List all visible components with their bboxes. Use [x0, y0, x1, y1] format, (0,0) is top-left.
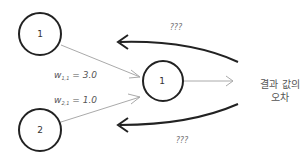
output-node-label: 1 — [159, 76, 165, 86]
arrowhead-icon — [129, 70, 140, 78]
input-node-1-label: 1 — [37, 29, 43, 39]
output-arrow — [184, 76, 233, 86]
input-node-1: 1 — [19, 13, 61, 55]
weight-label-1-1: w1,1= 3.0 — [54, 70, 97, 81]
output-error-label-line2: 오차 — [256, 91, 303, 104]
backprop-label-bottom: ??? — [176, 136, 189, 145]
output-error-label: 결과 값의 오차 — [256, 78, 303, 104]
output-node: 1 — [143, 61, 183, 101]
backprop-arrow-bottom — [118, 104, 238, 132]
backprop-label-top: ??? — [170, 23, 183, 32]
weight-label-2-1: w2,1= 1.0 — [54, 95, 97, 106]
output-error-label-line1: 결과 값의 — [256, 78, 303, 91]
input-node-2-label: 2 — [37, 125, 43, 135]
backprop-arrow-top — [118, 35, 238, 62]
input-node-2: 2 — [19, 109, 61, 151]
